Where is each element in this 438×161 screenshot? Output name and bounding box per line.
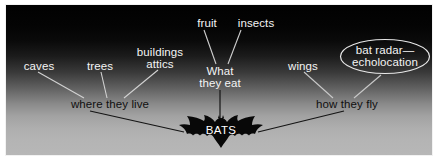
connector-how-they-fly-to-bats (258, 111, 344, 132)
connector-caves (38, 72, 84, 98)
node-where-they-live-label: where they live (71, 98, 149, 110)
bat-silhouette-icon[interactable]: BATS (178, 113, 264, 151)
node-insects-label: insects (238, 17, 275, 29)
node-buildings-label: buildings (131, 46, 189, 58)
node-echolocation-label: echolocation (339, 56, 431, 68)
node-bat-radar-echolocation: bat radar— echolocation (339, 44, 431, 68)
node-caves[interactable]: caves (17, 60, 61, 72)
node-trees[interactable]: trees (79, 60, 121, 72)
echolocation-ellipse-group[interactable]: bat radar— echolocation (339, 38, 431, 75)
node-insects[interactable]: insects (230, 17, 282, 29)
bats-label: BATS (178, 124, 264, 136)
connector-fruit (204, 30, 216, 64)
node-how-they-fly[interactable]: how they fly (306, 98, 388, 110)
diagram-canvas: fruit insects caves trees buildings atti… (5, 4, 433, 156)
node-bat-radar-label: bat radar— (339, 44, 431, 56)
node-fruit[interactable]: fruit (187, 17, 227, 29)
connector-buildings-attics (124, 70, 158, 98)
connector-where-they-live-to-bats (90, 111, 184, 132)
node-they-eat-label: they eat (191, 77, 249, 89)
node-buildings-attics[interactable]: buildings attics (131, 46, 189, 70)
connector-echolocation (354, 75, 381, 98)
node-trees-label: trees (87, 60, 113, 72)
node-fruit-label: fruit (197, 17, 217, 29)
node-wings-label: wings (288, 60, 318, 72)
connector-wings (304, 72, 333, 98)
node-caves-label: caves (24, 60, 55, 72)
node-where-they-live[interactable]: where they live (64, 98, 156, 110)
node-wings[interactable]: wings (281, 60, 325, 72)
node-what-label: What (191, 65, 249, 77)
node-what-they-eat[interactable]: What they eat (191, 65, 249, 89)
diagram-frame: fruit insects caves trees buildings atti… (0, 0, 438, 161)
node-how-they-fly-label: how they fly (316, 98, 378, 110)
connector-insects (228, 30, 241, 64)
node-attics-label: attics (131, 58, 189, 70)
connector-trees (101, 72, 107, 98)
